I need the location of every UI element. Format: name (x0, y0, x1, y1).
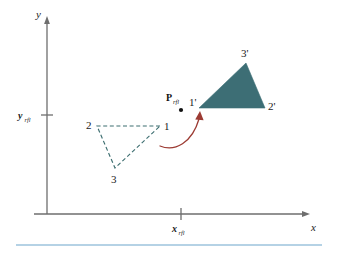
reflection-point-label-main: P (166, 92, 172, 103)
y-ref-tick-label: y rfl (17, 110, 31, 123)
axes-group (34, 16, 310, 217)
source-vertex-label-3: 3 (111, 173, 117, 185)
y-ref-tick-label-main: y (17, 110, 23, 121)
source-vertex-label-2: 2 (86, 119, 92, 131)
reflection-point-label-sub: rfl (173, 98, 179, 105)
x-axis-arrowhead (302, 211, 310, 217)
source-vertex-label-1: 1 (164, 120, 170, 132)
reflection-point-label: P rfl (166, 92, 179, 105)
x-ref-tick-label-sub: rfl (179, 229, 185, 236)
x-ref-tick-label: x rfl (171, 223, 185, 236)
x-axis-label: x (310, 221, 316, 233)
figure-container: y x y rfl x rfl 1 2 3 1' 2' 3' P rfl (0, 0, 338, 255)
reflection-diagram-canvas: y x y rfl x rfl 1 2 3 1' 2' 3' P rfl (0, 0, 338, 255)
image-vertex-label-2-prime: 2' (268, 100, 276, 112)
source-triangle-outline (97, 126, 160, 168)
image-vertex-label-1-prime: 1' (189, 96, 197, 108)
x-ref-tick-label-main: x (171, 223, 177, 234)
reflection-point-dot (179, 108, 183, 112)
y-axis-label: y (35, 8, 41, 20)
image-triangle-shape (199, 63, 265, 108)
y-ref-tick-label-sub: rfl (25, 116, 31, 123)
y-axis-arrowhead (44, 16, 50, 24)
image-vertex-label-3-prime: 3' (241, 47, 249, 59)
